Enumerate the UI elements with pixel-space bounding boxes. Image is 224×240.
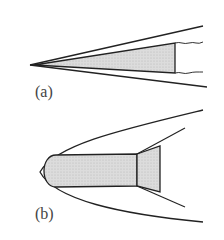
panel-a: (a) [30,26,207,101]
wake-boundary-lower [175,72,203,74]
wake-boundary-upper [175,42,203,44]
diagram-canvas: (a) (b) [0,0,224,240]
panel-label-a: (a) [35,83,53,101]
panel-b: (b) [35,110,203,223]
blunt-body [44,154,137,187]
flare-base [137,146,160,192]
expansion-line-upper [137,128,185,154]
panel-label-b: (b) [35,205,54,223]
expansion-line-lower [137,186,185,207]
